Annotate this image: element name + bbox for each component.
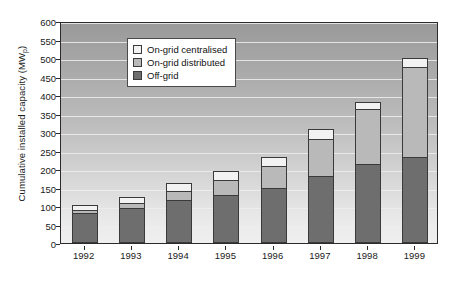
x-axis-tick-mark <box>414 246 415 250</box>
x-axis-tick-mark <box>131 246 132 250</box>
legend-label: On-grid distributed <box>147 57 225 68</box>
gridline <box>61 23 437 24</box>
x-axis-tick-label: 1998 <box>342 250 392 261</box>
bar-segment-off-grid-1998 <box>355 164 381 243</box>
x-axis-tick-label: 1997 <box>295 250 345 261</box>
x-axis-tick-label: 1992 <box>59 250 109 261</box>
legend-swatch-on-grid-distributed <box>133 58 142 67</box>
legend: On-grid centralised On-grid distributed … <box>127 38 236 87</box>
bar-segment-on-grid-centralised-1999 <box>402 58 428 67</box>
bar-segment-on-grid-centralised-1998 <box>355 102 381 109</box>
legend-item: Off-grid <box>133 69 227 82</box>
bar-segment-off-grid-1997 <box>308 176 334 243</box>
y-axis-tick-label: 450 <box>2 72 56 83</box>
bar-segment-on-grid-centralised-1996 <box>261 157 287 166</box>
bar-segment-off-grid-1995 <box>213 195 239 243</box>
x-axis-tick-mark <box>225 246 226 250</box>
bar-segment-on-grid-centralised-1993 <box>119 197 145 204</box>
bar-1992 <box>72 205 98 243</box>
gridline <box>61 42 437 43</box>
bar-segment-off-grid-1993 <box>119 208 145 243</box>
gridline <box>61 60 437 61</box>
bar-1993 <box>119 197 145 243</box>
bar-segment-on-grid-distributed-1994 <box>166 191 192 200</box>
legend-item: On-grid distributed <box>133 56 227 69</box>
bar-segment-on-grid-distributed-1996 <box>261 166 287 187</box>
legend-label: On-grid centralised <box>147 44 227 55</box>
bar-segment-on-grid-centralised-1997 <box>308 129 334 139</box>
bar-segment-off-grid-1999 <box>402 157 428 243</box>
y-axis-tick-label: 400 <box>2 91 56 102</box>
chart-figure: Cumulative installed capacity (MWp) 0501… <box>0 0 453 282</box>
x-axis-tick-label: 1996 <box>248 250 298 261</box>
y-axis-tick-label: 250 <box>2 146 56 157</box>
y-axis-tick-label: 0 <box>2 239 56 250</box>
x-axis: 19921993199419951996199719981999 <box>60 246 438 266</box>
x-axis-tick-mark <box>367 246 368 250</box>
x-axis-tick-mark <box>320 246 321 250</box>
x-axis-tick-label: 1993 <box>106 250 156 261</box>
y-axis-tick-label: 550 <box>2 35 56 46</box>
y-axis-tick-label: 100 <box>2 202 56 213</box>
bar-1995 <box>213 171 239 243</box>
y-axis-tick-label: 300 <box>2 128 56 139</box>
gridline <box>61 79 437 80</box>
bar-1996 <box>261 157 287 243</box>
x-axis-tick-mark <box>84 246 85 250</box>
bar-segment-on-grid-distributed-1999 <box>402 67 428 157</box>
bar-segment-on-grid-distributed-1997 <box>308 139 334 176</box>
bar-segment-off-grid-1992 <box>72 213 98 243</box>
bar-segment-on-grid-centralised-1994 <box>166 183 192 191</box>
bar-segment-off-grid-1996 <box>261 188 287 244</box>
bar-1999 <box>402 58 428 243</box>
y-axis-tick-mark <box>56 244 60 245</box>
y-axis-tick-label: 50 <box>2 220 56 231</box>
legend-label: Off-grid <box>147 70 179 81</box>
bar-segment-on-grid-centralised-1995 <box>213 171 239 180</box>
y-axis-tick-label: 150 <box>2 183 56 194</box>
legend-swatch-on-grid-centralised <box>133 45 142 54</box>
bar-segment-off-grid-1994 <box>166 200 192 243</box>
bar-segment-on-grid-distributed-1998 <box>355 109 381 164</box>
legend-swatch-off-grid <box>133 71 142 80</box>
bar-1998 <box>355 102 381 243</box>
y-axis: 050100150200250300350400450500550600 <box>0 22 56 244</box>
gridline <box>61 97 437 98</box>
legend-item: On-grid centralised <box>133 43 227 56</box>
plot-area: On-grid centralised On-grid distributed … <box>60 22 438 244</box>
x-axis-tick-mark <box>273 246 274 250</box>
x-axis-tick-label: 1999 <box>389 250 439 261</box>
bar-1997 <box>308 129 334 243</box>
bar-segment-on-grid-distributed-1995 <box>213 180 239 195</box>
x-axis-tick-label: 1994 <box>153 250 203 261</box>
y-axis-tick-label: 600 <box>2 17 56 28</box>
x-axis-tick-mark <box>178 246 179 250</box>
y-axis-tick-label: 200 <box>2 165 56 176</box>
y-axis-tick-label: 350 <box>2 109 56 120</box>
bar-1994 <box>166 183 192 243</box>
y-axis-tick-label: 500 <box>2 54 56 65</box>
x-axis-tick-label: 1995 <box>200 250 250 261</box>
